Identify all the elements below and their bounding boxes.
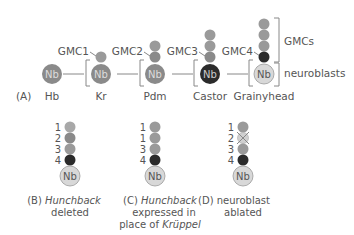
stage-name: Hb	[45, 90, 60, 102]
stage-name: Kr	[95, 90, 107, 102]
gmc-number: 2	[228, 133, 234, 144]
panel-c-caption: (C) Hunchback	[123, 195, 198, 206]
stage-name: Pdm	[143, 90, 166, 102]
gmc-number: 1	[140, 133, 146, 144]
stage-pdm: Nb Pdm GMC2	[112, 41, 167, 103]
panel-d-caption: (D) neuroblast	[198, 195, 270, 206]
gmc-number: 4	[55, 155, 61, 166]
stage-name: Grainyhead	[234, 90, 295, 102]
gmc-number: 1	[228, 122, 234, 133]
nb-label: Nb	[203, 69, 217, 80]
gmc-label: GMC4	[222, 45, 254, 57]
panel-d: Nb 1 2 3 4 (D) neuroblast ablated	[198, 122, 270, 219]
neuroblasts-bracket-label: neuroblasts	[284, 67, 345, 79]
stage-grainyhead: Nb Grainyhead GMC4	[222, 19, 295, 103]
gmc-number: 1	[140, 122, 146, 133]
gmc-number: 4	[140, 155, 146, 166]
gmc-number: 3	[140, 144, 146, 155]
nb-label: Nb	[94, 69, 108, 80]
gmc-label: GMC2	[112, 45, 143, 57]
nb-label: Nb	[148, 171, 162, 182]
gmc-number: 3	[55, 144, 61, 155]
stage-name: Castor	[193, 90, 228, 102]
stage-hb: Nb Hb	[42, 64, 62, 102]
gmc-number: 1	[55, 122, 61, 133]
panel-c-caption-line3: place of Krüppel	[119, 219, 201, 230]
nb-label: Nb	[45, 69, 59, 80]
gmcs-bracket-label: GMCs	[284, 35, 314, 47]
panel-b-caption-line2: deleted	[51, 207, 89, 218]
stage-castor: Nb Castor GMC3	[167, 30, 228, 103]
panel-d-caption-line2: ablated	[224, 207, 262, 218]
nb-label: Nb	[148, 69, 162, 80]
gmc-label: GMC3	[167, 45, 198, 57]
gmc-number: 4	[228, 155, 234, 166]
nb-label: Nb	[236, 171, 250, 182]
nb-label: Nb	[63, 171, 77, 182]
panel-b-caption: (B) Hunchback	[27, 195, 102, 206]
neuroblast-temporal-diagram: Nb Hb (A) Nb Kr GMC1 Nb Pdm GMC2 Nb Cast…	[0, 0, 354, 235]
gmc-number: 3	[228, 144, 234, 155]
panel-c: Nb 1 1 3 4 (C) Hunchback expressed in pl…	[119, 122, 201, 231]
panel-b: Nb 1 2 3 4 (B) Hunchback deleted	[27, 122, 102, 219]
panel-c-caption-line2: expressed in	[132, 207, 196, 218]
gmc-number: 2	[55, 133, 61, 144]
gmc-label: GMC1	[58, 45, 89, 57]
nb-label: Nb	[257, 69, 271, 80]
panel-a-label: (A)	[16, 90, 31, 102]
